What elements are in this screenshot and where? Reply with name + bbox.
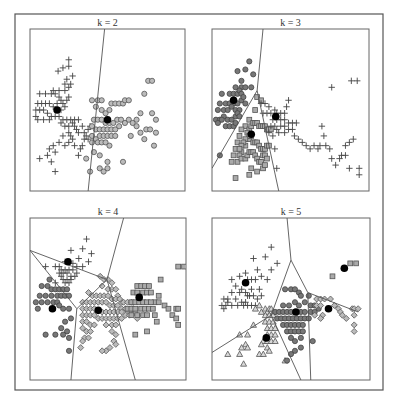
dark-circle-marker (66, 348, 71, 353)
dark-circle-marker (219, 91, 224, 96)
centroid-marker (49, 305, 57, 313)
panel-k2: k = 2 (30, 17, 185, 191)
square-marker (233, 176, 238, 181)
square-marker (147, 284, 152, 289)
circle-marker (142, 137, 147, 142)
square-marker (249, 166, 254, 171)
circle-marker (97, 153, 102, 158)
square-marker (330, 274, 335, 279)
centroid-marker (94, 307, 102, 315)
kmeans-figure: k = 2 k = 3 k = 4 k = 5 (0, 0, 400, 410)
centroid-marker (325, 305, 333, 313)
dark-circle-marker (217, 101, 222, 106)
dark-circle-marker (59, 326, 64, 331)
dark-circle-marker (241, 94, 246, 99)
circle-marker (84, 156, 89, 161)
dark-circle-marker (282, 287, 287, 292)
dark-circle-marker (53, 332, 58, 337)
circle-marker (153, 130, 158, 135)
square-marker (237, 134, 242, 139)
centroid-marker (272, 113, 280, 121)
square-marker (231, 153, 236, 158)
centroid-marker (247, 131, 255, 139)
dark-circle-marker (219, 117, 224, 122)
square-marker (154, 319, 159, 324)
dark-circle-marker (61, 332, 66, 337)
dark-circle-marker (45, 300, 50, 305)
circle-marker (149, 78, 154, 83)
dark-circle-marker (243, 101, 248, 106)
dark-circle-marker (64, 287, 69, 292)
dark-circle-marker (298, 293, 303, 298)
dark-circle-marker (251, 72, 256, 77)
square-marker (237, 146, 242, 151)
square-marker (239, 127, 244, 132)
dark-circle-marker (239, 78, 244, 83)
square-marker (348, 261, 353, 266)
square-marker (176, 264, 181, 269)
dark-circle-marker (243, 67, 248, 72)
circle-marker (134, 124, 139, 129)
circle-marker (117, 124, 122, 129)
square-marker (174, 316, 179, 321)
dark-circle-marker (215, 107, 220, 112)
dark-circle-marker (37, 293, 42, 298)
centroid-marker (53, 106, 61, 114)
centroid-marker (263, 334, 271, 342)
dark-circle-marker (302, 300, 307, 305)
square-marker (156, 293, 161, 298)
dark-circle-marker (235, 69, 240, 74)
dark-circle-marker (35, 306, 40, 311)
centroid-marker (341, 264, 349, 272)
dark-circle-marker (300, 322, 305, 327)
dark-circle-marker (47, 277, 52, 282)
centroid-marker (292, 308, 300, 316)
centroid-marker (104, 116, 112, 124)
square-marker (150, 306, 155, 311)
circle-marker (153, 117, 158, 122)
square-marker (263, 163, 268, 168)
square-marker (145, 329, 150, 334)
centroid-marker (64, 258, 72, 266)
circle-marker (142, 91, 147, 96)
dark-circle-marker (66, 306, 71, 311)
circle-marker (134, 117, 139, 122)
dark-circle-marker (33, 300, 38, 305)
square-marker (133, 306, 138, 311)
dark-circle-marker (247, 59, 252, 64)
circle-marker (113, 133, 118, 138)
dark-circle-marker (68, 316, 73, 321)
dark-circle-marker (310, 339, 315, 344)
square-marker (354, 261, 359, 266)
square-marker (149, 290, 154, 295)
dark-circle-marker (296, 303, 301, 308)
circle-marker (105, 166, 110, 171)
circle-marker (126, 98, 131, 103)
circle-marker (89, 140, 94, 145)
circle-marker (107, 143, 112, 148)
circle-marker (89, 98, 94, 103)
square-marker (182, 264, 187, 269)
circle-marker (128, 133, 133, 138)
square-marker (152, 313, 157, 318)
square-marker (255, 169, 260, 174)
dark-circle-marker (298, 335, 303, 340)
square-marker (156, 300, 161, 305)
square-marker (176, 323, 181, 328)
dark-circle-marker (300, 329, 305, 334)
dark-circle-marker (49, 293, 54, 298)
dark-circle-marker (286, 303, 291, 308)
square-marker (149, 300, 154, 305)
circle-marker (93, 104, 98, 109)
circle-marker (138, 130, 143, 135)
square-marker (145, 313, 150, 318)
dark-circle-marker (284, 358, 289, 363)
dark-circle-marker (298, 345, 303, 350)
dark-circle-marker (249, 85, 254, 90)
dark-circle-marker (61, 306, 66, 311)
dark-circle-marker (63, 319, 68, 324)
dark-circle-marker (39, 300, 44, 305)
centroid-marker (242, 279, 250, 287)
centroid-marker (135, 294, 143, 302)
dark-circle-marker (66, 335, 71, 340)
